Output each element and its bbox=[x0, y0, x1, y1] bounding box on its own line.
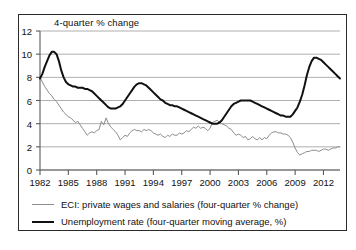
y-axis-tick-0: 0 bbox=[16, 165, 32, 176]
legend-label-1: Unemployment rate (four-quarter moving a… bbox=[61, 216, 286, 227]
x-axis-tick-1991: 1991 bbox=[114, 177, 135, 188]
x-axis-tick-2003: 2003 bbox=[228, 177, 249, 188]
x-axis-tick-1985: 1985 bbox=[58, 177, 79, 188]
chart-legend: ECI: private wages and salaries (four-qu… bbox=[22, 196, 342, 230]
y-axis-tick-2: 2 bbox=[16, 141, 32, 152]
x-axis-tick-2006: 2006 bbox=[256, 177, 277, 188]
y-axis-tick-4: 4 bbox=[16, 118, 32, 129]
x-axis-tick-1994: 1994 bbox=[143, 177, 164, 188]
legend-swatch-0 bbox=[32, 204, 54, 205]
y-axis-tick-10: 10 bbox=[16, 49, 32, 60]
legend-item-0: ECI: private wages and salaries (four-qu… bbox=[22, 196, 342, 213]
x-axis-tick-1997: 1997 bbox=[171, 177, 192, 188]
legend-swatch-1 bbox=[32, 221, 54, 223]
x-axis-tick-2012: 2012 bbox=[313, 177, 334, 188]
x-axis-tick-1988: 1988 bbox=[86, 177, 107, 188]
y-axis-tick-8: 8 bbox=[16, 72, 32, 83]
x-axis-tick-1982: 1982 bbox=[29, 177, 50, 188]
y-axis-tick-6: 6 bbox=[16, 95, 32, 106]
series-line-1 bbox=[40, 52, 340, 124]
legend-label-0: ECI: private wages and salaries (four-qu… bbox=[61, 199, 298, 210]
legend-item-1: Unemployment rate (four-quarter moving a… bbox=[22, 213, 342, 230]
x-axis-tick-2000: 2000 bbox=[200, 177, 221, 188]
y-axis-tick-12: 12 bbox=[16, 26, 32, 37]
x-axis-tick-2009: 2009 bbox=[285, 177, 306, 188]
chart-figure: 4-quarter % change 024681012 19821985198… bbox=[0, 0, 356, 250]
